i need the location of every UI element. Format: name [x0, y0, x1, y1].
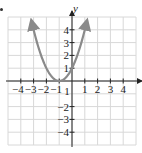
- y-tick-label: 3: [64, 37, 70, 49]
- x-tick-label: −4: [12, 83, 24, 95]
- x-tick-label: 3: [108, 83, 114, 95]
- parabola-graph: xy−4−3−2−11234−4−3−212341: [0, 0, 142, 153]
- y-tick-label: −4: [57, 126, 69, 138]
- y-tick-label: −3: [57, 113, 69, 125]
- x-tick-label: −1: [50, 83, 62, 95]
- y-tick-label: 1: [64, 62, 70, 74]
- y-tick-label-neg1: 1: [64, 85, 70, 97]
- x-tick-label: 1: [82, 83, 88, 95]
- x-tick-label: 4: [120, 83, 126, 95]
- y-tick-label: −2: [57, 101, 69, 113]
- x-tick-label: −2: [38, 83, 50, 95]
- y-axis-label: y: [72, 2, 78, 14]
- y-tick-label: 4: [64, 24, 70, 36]
- x-tick-label: −3: [25, 83, 37, 95]
- y-tick-label: 2: [64, 49, 70, 61]
- x-tick-label: 2: [95, 83, 101, 95]
